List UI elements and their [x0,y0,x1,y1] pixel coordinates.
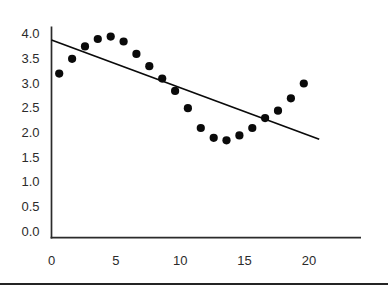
data-point [81,42,89,50]
y-tick-label: 0.0 [21,224,39,239]
data-point [287,94,295,102]
data-point [274,107,282,115]
trend-line [52,40,320,139]
data-point [235,131,243,139]
data-point [68,55,76,63]
data-point [145,62,153,70]
data-point [94,35,102,43]
y-tick-label: 1.5 [21,150,39,165]
x-tick-label: 15 [237,253,251,268]
data-point [107,33,115,41]
bottom-rule [0,283,388,286]
x-tick-label: 10 [173,253,187,268]
y-tick-label: 0.5 [21,199,39,214]
x-tick-label: 0 [48,253,55,268]
scatter-chart: 4.03.53.02.52.01.51.00.50.005101520 [0,0,388,278]
data-point [248,124,256,132]
x-tick-label: 20 [302,253,316,268]
y-tick-label: 3.0 [21,76,39,91]
data-point [222,136,230,144]
y-tick-label: 2.0 [21,125,39,140]
y-tick-label: 1.0 [21,174,39,189]
y-tick-label: 2.5 [21,100,39,115]
data-point [184,104,192,112]
y-tick-label: 4.0 [21,26,39,41]
data-point [171,87,179,95]
data-point [210,134,218,142]
scatter-plot-figure: 4.03.53.02.52.01.51.00.50.005101520 [0,0,388,289]
data-point [132,50,140,58]
data-point [55,70,63,78]
data-point [197,124,205,132]
x-tick-label: 5 [112,253,119,268]
data-point [120,37,128,45]
data-point [300,79,308,87]
y-tick-label: 3.5 [21,51,39,66]
